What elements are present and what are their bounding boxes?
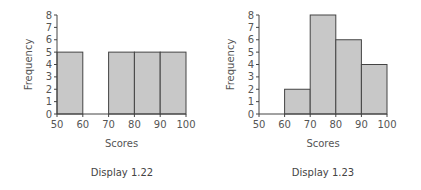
- histogram-bar: [160, 52, 186, 114]
- y-axis-label: Frequency: [225, 39, 236, 91]
- y-tick-label: 8: [248, 10, 254, 21]
- x-tick-label: 60: [278, 119, 291, 130]
- y-tick-label: 3: [46, 71, 52, 82]
- y-tick-label: 1: [46, 96, 52, 107]
- x-tick-label: 100: [176, 119, 195, 130]
- y-tick-label: 2: [248, 84, 254, 95]
- y-axis-label: Frequency: [23, 39, 34, 91]
- y-tick-label: 6: [46, 34, 52, 45]
- y-tick-label: 4: [248, 59, 254, 70]
- y-tick-label: 5: [46, 47, 52, 58]
- x-tick-label: 90: [355, 119, 368, 130]
- y-tick-label: 2: [46, 84, 52, 95]
- y-tick-label: 7: [46, 22, 52, 33]
- x-axis-label: Scores: [306, 138, 339, 149]
- y-tick-label: 0: [248, 109, 254, 120]
- histogram-bar: [361, 65, 387, 115]
- histogram-bar: [109, 52, 135, 114]
- x-tick-label: 80: [128, 119, 141, 130]
- y-tick-label: 4: [46, 59, 52, 70]
- x-tick-label: 70: [102, 119, 115, 130]
- figure-caption: Display 1.22: [91, 167, 153, 178]
- y-tick-label: 3: [248, 71, 254, 82]
- histogram-bar: [57, 52, 83, 114]
- x-tick-label: 50: [51, 119, 64, 130]
- histogram-bar: [285, 89, 311, 114]
- y-tick-label: 5: [248, 47, 254, 58]
- y-tick-label: 8: [46, 10, 52, 21]
- y-tick-label: 7: [248, 22, 254, 33]
- x-tick-label: 60: [76, 119, 89, 130]
- figure-caption: Display 1.23: [292, 167, 354, 178]
- y-tick-label: 0: [46, 109, 52, 120]
- x-tick-label: 70: [304, 119, 317, 130]
- x-axis-label: Scores: [105, 138, 138, 149]
- x-tick-label: 80: [329, 119, 342, 130]
- histogram-display-1-23: 0123456785060708090100ScoresFrequencyDis…: [225, 10, 397, 179]
- x-tick-label: 50: [253, 119, 266, 130]
- y-tick-label: 6: [248, 34, 254, 45]
- x-tick-label: 90: [154, 119, 167, 130]
- x-tick-label: 100: [377, 119, 396, 130]
- histogram-bar: [134, 52, 160, 114]
- y-tick-label: 1: [248, 96, 254, 107]
- histograms-figure: 0123456785060708090100ScoresFrequencyDis…: [0, 0, 421, 190]
- histogram-display-1-22: 0123456785060708090100ScoresFrequencyDis…: [23, 10, 196, 179]
- histogram-bar: [310, 15, 336, 114]
- histogram-bar: [336, 40, 362, 114]
